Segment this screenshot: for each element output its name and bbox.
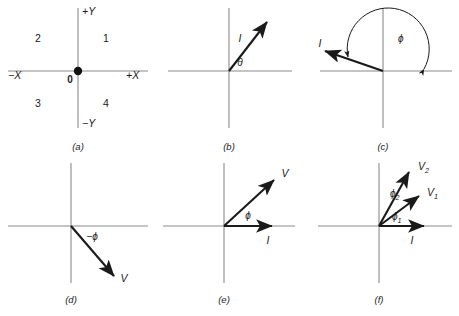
quadrant-label-1: 1 [103, 32, 109, 44]
angle-label-negative-phi: −ϕ [86, 231, 98, 242]
origin-dot [74, 67, 82, 75]
panel-b: I θ (b) [168, 8, 292, 152]
quadrant-label-3: 3 [35, 97, 41, 109]
phase-angle-arc [347, 8, 429, 69]
panel-caption-a: (a) [72, 141, 84, 152]
panel-caption-b: (b) [223, 141, 235, 152]
phasor-diagram-figure: +X −X +Y −Y 0 1 2 3 4 (a) I θ (b) [0, 0, 459, 316]
current-vector-label: I [411, 234, 414, 246]
angle-label-phi: ϕ [245, 210, 251, 221]
voltage-vector-1-label: V1 [427, 186, 438, 201]
figure-canvas: +X −X +Y −Y 0 1 2 3 4 (a) I θ (b) [0, 0, 459, 316]
quadrant-label-2: 2 [35, 32, 41, 44]
angle-label-phi: ϕ [398, 33, 404, 44]
voltage-vector-label: V [120, 272, 128, 284]
axis-label-minus-x: −X [8, 69, 22, 81]
panel-caption-e: (e) [218, 294, 230, 305]
panel-e: ϕ V I (e) [163, 163, 295, 305]
angle-label-phi-1: ϕ1 [392, 211, 402, 225]
panel-caption-d: (d) [65, 294, 77, 305]
quadrant-label-4: 4 [103, 97, 109, 109]
origin-label: 0 [67, 74, 73, 85]
panel-caption-f: (f) [375, 294, 384, 305]
panel-caption-c: (c) [377, 141, 388, 152]
panel-d: −ϕ V (d) [8, 163, 148, 305]
panel-a: +X −X +Y −Y 0 1 2 3 4 (a) [8, 5, 148, 152]
current-vector [229, 22, 267, 71]
axis-label-plus-x: +X [126, 69, 140, 81]
current-vector-label: I [239, 32, 242, 44]
panel-c: ϕ I (c) [319, 8, 452, 152]
axis-label-plus-y: +Y [82, 5, 96, 17]
voltage-vector-label: V [281, 167, 289, 179]
angle-label-theta: θ [237, 57, 243, 68]
current-vector [325, 51, 383, 71]
panel-f: V2 V1 I ϕ2 ϕ1 (f) [318, 160, 452, 305]
current-vector-label: I [267, 234, 270, 246]
axis-label-minus-y: −Y [82, 117, 96, 129]
current-vector-label: I [319, 37, 322, 49]
voltage-vector-2-label: V2 [418, 160, 429, 175]
